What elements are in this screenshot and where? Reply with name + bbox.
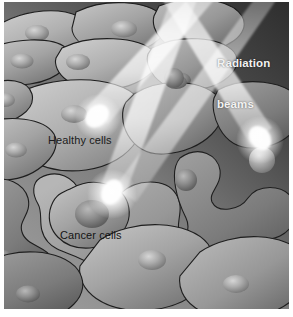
nucleus — [111, 21, 137, 38]
nucleus — [5, 143, 27, 158]
nucleus — [16, 286, 40, 303]
radiation-therapy-figure: Radiation beams Healthy cells Cancer cel… — [0, 0, 293, 317]
illustration-svg — [4, 2, 289, 309]
impact-glow — [87, 169, 137, 219]
impact-glow — [236, 116, 284, 164]
nucleus — [138, 250, 166, 270]
nucleus — [223, 275, 249, 293]
nucleus — [66, 54, 90, 70]
nucleus — [11, 54, 34, 69]
cancer-nucleus — [175, 169, 197, 191]
illustration-canvas — [4, 2, 289, 309]
impact-glow — [75, 94, 121, 140]
nucleus — [25, 25, 49, 41]
